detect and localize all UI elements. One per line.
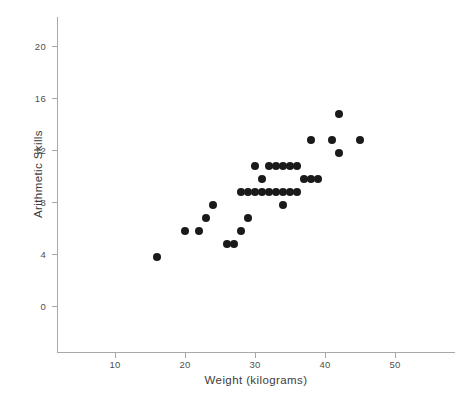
data-point xyxy=(153,253,161,261)
data-point xyxy=(293,162,301,170)
data-point xyxy=(307,136,315,144)
scatter-plot-figure: 20 16 12 8 4 0 10 20 30 40 50 Arithmetic… xyxy=(0,0,471,397)
data-points-layer xyxy=(0,0,471,397)
data-point xyxy=(195,227,203,235)
data-point xyxy=(279,201,287,209)
data-point xyxy=(230,240,238,248)
data-point xyxy=(335,149,343,157)
data-point xyxy=(251,162,259,170)
data-point xyxy=(202,214,210,222)
data-point xyxy=(328,136,336,144)
data-point xyxy=(181,227,189,235)
data-point xyxy=(293,188,301,196)
data-point xyxy=(356,136,364,144)
data-point xyxy=(314,175,322,183)
data-point xyxy=(244,214,252,222)
data-point xyxy=(209,201,217,209)
data-point xyxy=(335,110,343,118)
data-point xyxy=(258,175,266,183)
data-point xyxy=(237,227,245,235)
